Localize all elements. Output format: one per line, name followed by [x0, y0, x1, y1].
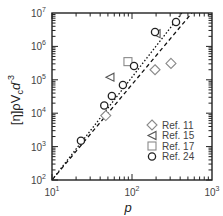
data-point-circle: [130, 62, 137, 69]
y-tick-base: 10: [31, 75, 43, 86]
legend-label: Ref. 24: [162, 151, 195, 162]
data-point-circle: [172, 18, 179, 25]
x-axis-title: p: [123, 200, 131, 215]
y-tick-exponent: 7: [42, 6, 46, 13]
x-tick-exponent: 3: [216, 185, 220, 192]
legend-marker-square: [148, 142, 156, 150]
y-tick-label: 104: [31, 106, 46, 119]
legend-label: Ref. 11: [162, 120, 194, 131]
x-tick-base: 10: [124, 187, 136, 198]
svg-text:[η]ρVcd-3: [η]ρVcd-3: [6, 75, 25, 125]
y-tick-base: 10: [31, 8, 43, 19]
y-tick-label: 107: [31, 6, 46, 19]
x-tick-base: 10: [204, 187, 216, 198]
y-tick-base: 10: [31, 175, 43, 186]
y-tick-base: 10: [31, 108, 43, 119]
y-tick-label: 103: [31, 140, 46, 153]
y-tick-label: 105: [31, 73, 46, 86]
tick-labels: 101102103102103104105106107: [31, 6, 220, 198]
x-tick-label: 101: [44, 185, 59, 198]
data-point-circle: [108, 92, 115, 99]
data-point-circle: [101, 102, 108, 109]
y-tick-exponent: 5: [42, 73, 46, 80]
legend-marker-triangle-left: [148, 132, 156, 140]
data-point-diamond: [166, 58, 176, 68]
y-tick-base: 10: [31, 142, 43, 153]
y-tick-label: 102: [31, 173, 46, 186]
data-point-circle: [119, 81, 126, 88]
y-axis-title: [η]ρVcd-3: [6, 75, 25, 125]
legend-label: Ref. 17: [162, 141, 195, 152]
legend: Ref. 11Ref. 15Ref. 17Ref. 24: [147, 120, 195, 163]
chart: 101102103102103104105106107 p [η]ρVcd-3 …: [0, 0, 223, 216]
data-point-triangle-left: [106, 73, 114, 81]
y-tick-exponent: 6: [42, 39, 46, 46]
series-ref-11: [101, 58, 176, 120]
series-ref-15: [106, 30, 160, 81]
y-tick-label: 106: [31, 39, 46, 52]
y-tick-base: 10: [31, 41, 43, 52]
y-axis-title-exp: -3: [6, 75, 16, 83]
legend-marker-circle: [148, 153, 155, 160]
y-tick-exponent: 3: [42, 140, 46, 147]
data-point-diamond: [150, 65, 160, 75]
y-axis-title-main: [η]ρV: [8, 94, 23, 125]
x-tick-label: 102: [124, 185, 139, 198]
y-tick-exponent: 2: [42, 173, 46, 180]
x-tick-exponent: 2: [136, 185, 140, 192]
legend-item: Ref. 17: [148, 141, 195, 152]
y-tick-exponent: 4: [42, 106, 46, 113]
x-tick-exponent: 1: [56, 185, 60, 192]
legend-item: Ref. 15: [148, 130, 195, 141]
data-point-circle: [77, 137, 84, 144]
legend-item: Ref. 24: [148, 151, 194, 162]
x-tick-label: 103: [204, 185, 219, 198]
legend-label: Ref. 15: [162, 130, 195, 141]
legend-marker-diamond: [147, 120, 157, 130]
legend-item: Ref. 11: [147, 120, 194, 131]
x-tick-base: 10: [44, 187, 56, 198]
data-point-circle: [151, 28, 158, 35]
